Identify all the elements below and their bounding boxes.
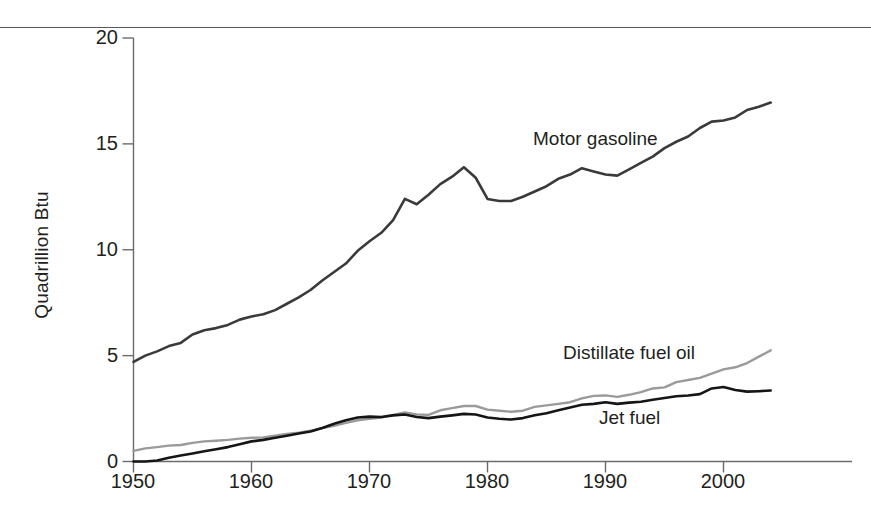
series-paths bbox=[134, 103, 771, 462]
series-label-jet-fuel: Jet fuel bbox=[599, 407, 660, 429]
plot-canvas bbox=[0, 0, 871, 513]
chart-figure: Quadrillion Btu 0 5 10 15 20 1950 1960 1… bbox=[0, 0, 871, 513]
axis-lines bbox=[134, 38, 853, 462]
series-line-distillate-fuel-oil bbox=[134, 350, 771, 451]
series-label-motor-gasoline: Motor gasoline bbox=[533, 128, 658, 150]
x-axis-ticks bbox=[134, 462, 724, 473]
series-label-distillate-fuel-oil: Distillate fuel oil bbox=[563, 342, 695, 364]
series-line-jet-fuel bbox=[134, 387, 771, 462]
series-line-motor-gasoline bbox=[134, 103, 771, 362]
y-axis-ticks bbox=[123, 38, 134, 462]
